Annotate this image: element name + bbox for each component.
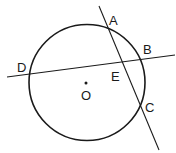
- label-b: B: [143, 42, 152, 57]
- label-a: A: [109, 13, 118, 28]
- label-e: E: [111, 69, 120, 84]
- label-c: C: [145, 100, 154, 115]
- line-ac: [99, 6, 159, 150]
- center-dot: [85, 82, 88, 85]
- label-o: O: [81, 88, 91, 103]
- label-d: D: [17, 60, 26, 75]
- geometry-diagram: A B D E C O: [0, 0, 176, 153]
